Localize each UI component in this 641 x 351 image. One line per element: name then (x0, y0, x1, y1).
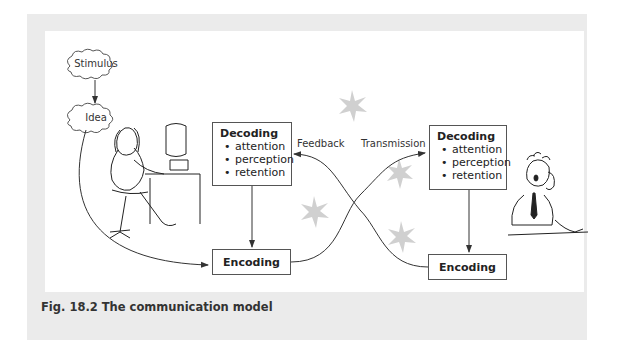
receiver-encoding-label: Encoding (439, 261, 496, 274)
noise-star-icon (301, 196, 329, 228)
idea-label: Idea (72, 112, 120, 123)
transmission-label: Transmission (361, 138, 426, 149)
noise-star-icon (388, 221, 416, 253)
sender-decoding-title: Decoding (220, 127, 287, 140)
receiver-encoding-box: Encoding (428, 254, 507, 280)
receiver-decoding-title: Decoding (437, 130, 502, 143)
stimulus-label: Stimulus (72, 58, 120, 69)
sender-decoding-box: Decoding attention perception retention (212, 122, 292, 186)
receiver-decoding-box: Decoding attention perception retention (429, 125, 507, 190)
sender-decoding-item: attention (230, 140, 287, 153)
feedback-label: Feedback (297, 138, 345, 149)
noise-star-icon (339, 90, 367, 122)
sender-encoding-box: Encoding (212, 249, 291, 275)
receiver-person-illustration (508, 152, 588, 235)
sender-person-illustration (110, 124, 200, 239)
receiver-decoding-item: retention (447, 169, 502, 182)
sender-decoding-item: retention (230, 166, 287, 179)
diagram-canvas (0, 0, 641, 351)
receiver-decoding-item: perception (447, 156, 502, 169)
noise-star-icon (387, 158, 413, 189)
sender-decoding-item: perception (230, 153, 287, 166)
figure-caption: Fig. 18.2 The communication model (41, 300, 273, 314)
receiver-decoding-item: attention (447, 143, 502, 156)
sender-encoding-label: Encoding (223, 256, 280, 269)
